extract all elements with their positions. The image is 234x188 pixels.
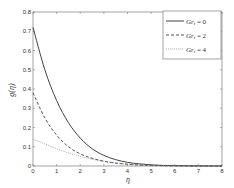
y-tick-label: 0.1 xyxy=(23,144,32,150)
x-tick-label: 8 xyxy=(220,168,224,174)
x-tick-label: 1 xyxy=(55,168,59,174)
x-tick-label: 4 xyxy=(126,168,130,174)
y-tick-label: 0.7 xyxy=(23,28,32,34)
y-tick-label: 0.2 xyxy=(23,125,32,131)
line-chart: 01234567800.10.20.30.40.50.60.70.8 Grt =… xyxy=(0,0,234,188)
x-tick-label: 3 xyxy=(102,168,106,174)
y-axis-label: g(η) xyxy=(7,83,16,97)
y-tick-label: 0.6 xyxy=(23,48,32,54)
x-tick-label: 5 xyxy=(149,168,153,174)
y-tick-label: 0.3 xyxy=(23,105,32,111)
legend: Grt = 0Grt = 2Grt = 4 xyxy=(163,11,221,59)
x-tick-label: 6 xyxy=(173,168,177,174)
legend-label-1: Grt = 0 xyxy=(186,18,207,27)
y-tick-label: 0.5 xyxy=(23,67,32,73)
x-tick-label: 7 xyxy=(197,168,201,174)
x-tick-label: 2 xyxy=(79,168,83,174)
legend-label-3: Grt = 4 xyxy=(186,46,207,55)
legend-label-2: Grt = 2 xyxy=(186,32,207,41)
x-tick-label: 0 xyxy=(31,168,35,174)
y-tick-label: 0.4 xyxy=(23,86,32,92)
y-tick-label: 0.8 xyxy=(23,9,32,15)
x-axis-label: η xyxy=(126,175,130,184)
